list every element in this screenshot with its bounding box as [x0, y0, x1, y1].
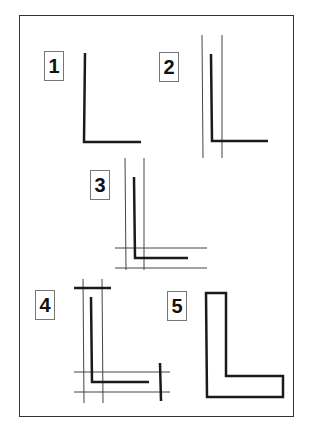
step-1-l-stroke: [84, 53, 141, 142]
step-2-l-stroke: [211, 54, 268, 141]
step-4-end-caps: [74, 288, 161, 401]
step-4-l-stroke: [91, 297, 149, 382]
step-4-guide-lines: [74, 279, 170, 403]
step-3-l-stroke: [134, 177, 188, 258]
step-5-l-outline: [206, 293, 283, 397]
step-3-guide-lines: [115, 158, 207, 270]
diagram-drawing: [0, 0, 310, 434]
